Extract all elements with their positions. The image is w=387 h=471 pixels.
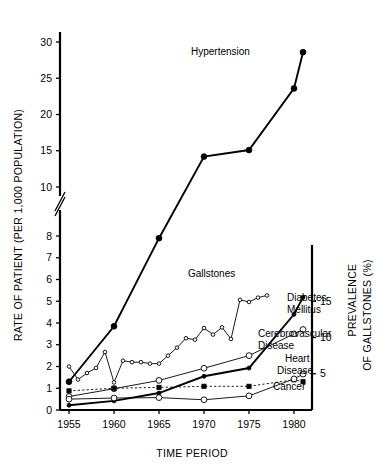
svg-text:4: 4 [46, 317, 52, 329]
svg-text:8: 8 [46, 230, 52, 242]
annotation-disease: Disease [258, 340, 295, 351]
svg-text:2: 2 [46, 360, 52, 372]
annotation-disease: Disease [277, 365, 314, 376]
svg-text:3: 3 [46, 338, 52, 350]
svg-text:10: 10 [40, 181, 52, 193]
data-series [66, 49, 306, 407]
svg-text:1970: 1970 [192, 418, 216, 430]
svg-text:5: 5 [46, 295, 52, 307]
annotation-gallstones: Gallstones [188, 268, 235, 279]
svg-text:25: 25 [40, 72, 52, 84]
svg-text:7: 7 [46, 251, 52, 263]
svg-text:1960: 1960 [102, 418, 126, 430]
svg-text:1955: 1955 [57, 418, 81, 430]
annotation-mellitus: Mellitus [287, 304, 321, 315]
x-axis-title: TIME PERIOD [156, 447, 228, 459]
line-chart: 0123456781015202530195519601965197019751… [0, 0, 387, 471]
svg-text:1975: 1975 [237, 418, 261, 430]
annotation-diabetes: Diabetes [287, 292, 326, 303]
y-axis-title: RATE OF PATIENT (PER 1,000 POPULATION) [12, 109, 24, 341]
annotation-heart: Heart [285, 353, 310, 364]
svg-text:5: 5 [320, 367, 326, 379]
annotation-cancer: Cancer [273, 381, 306, 392]
svg-text:0: 0 [46, 404, 52, 416]
series-cancer [66, 371, 306, 402]
svg-text:1: 1 [46, 382, 52, 394]
series-annotations: HypertensionGallstonesDiabetesMellitusCe… [188, 46, 332, 392]
chart-figure: 0123456781015202530195519601965197019751… [0, 0, 387, 471]
svg-text:30: 30 [40, 36, 52, 48]
annotation-hypertension: Hypertension [191, 46, 250, 57]
svg-text:1965: 1965 [147, 418, 171, 430]
svg-text:15: 15 [40, 144, 52, 156]
y2-axis-title-line1: PREVALENCE [346, 264, 358, 337]
svg-text:20: 20 [40, 108, 52, 120]
svg-text:1980: 1980 [282, 418, 306, 430]
y2-axis-title-line2: OF GALLSTONES (%) [361, 259, 373, 371]
svg-text:6: 6 [46, 273, 52, 285]
annotation-cerebrovascular: Cerebrovascular [258, 328, 332, 339]
